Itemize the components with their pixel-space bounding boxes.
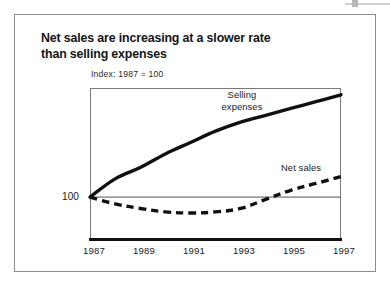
chart-title-line-2: than selling expenses — [41, 47, 167, 61]
x-tick-0: 1987 — [76, 245, 112, 256]
series-label-selling-line-1: Selling — [228, 89, 257, 100]
x-tick-5: 1997 — [326, 245, 362, 256]
series-label-selling-line-2: expenses — [222, 101, 263, 112]
x-tick-3: 1993 — [226, 245, 262, 256]
x-tick-2: 1991 — [176, 245, 212, 256]
index-note: Index: 1987 = 100 — [91, 69, 163, 79]
scan-artifact-mark — [352, 0, 358, 7]
x-tick-4: 1995 — [276, 245, 312, 256]
figure-root: Net sales are increasing at a slower rat… — [0, 0, 390, 287]
series-label-selling-expenses: Selling expenses — [208, 89, 276, 112]
x-axis-tick-labels: 1987 1989 1991 1993 1995 1997 — [76, 245, 362, 259]
chart-title-line-1: Net sales are increasing at a slower rat… — [41, 31, 270, 45]
series-label-net-sales: Net sales — [281, 162, 321, 174]
y-axis-reference-label: 100 — [62, 191, 79, 202]
chart-title: Net sales are increasing at a slower rat… — [41, 31, 301, 62]
series-line-net-sales — [90, 177, 341, 213]
x-tick-1: 1989 — [126, 245, 162, 256]
